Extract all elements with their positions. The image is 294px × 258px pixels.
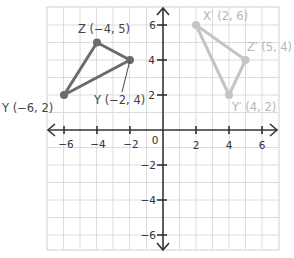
y-tick-label: 6: [149, 19, 156, 31]
label-y-prime: Y′ (4, 2): [231, 100, 276, 114]
y-tick-label: −4: [141, 194, 157, 206]
point-y: [60, 91, 68, 99]
point-z: [93, 39, 101, 47]
x-tick-label: −2: [123, 138, 138, 150]
label-z-prime: Z′ (5, 4): [247, 40, 292, 54]
point-z-prime: [242, 56, 250, 64]
y-tick-label: −2: [141, 159, 156, 171]
x-tick-label: 6: [259, 139, 266, 151]
x-tick-label: −6: [58, 138, 74, 150]
label-z: Z (−4, 5): [78, 22, 130, 36]
point-y-prime: [225, 91, 233, 99]
y-tick-label: −6: [141, 229, 157, 241]
coordinate-plane: −6 −4 −2 0 2 4 6 6 4 2 −2 −4 −6 Z (−4, 5…: [0, 0, 294, 258]
label-y-right: Y (−2, 4): [93, 93, 145, 107]
x-tick-label: 2: [193, 139, 200, 151]
y-tick-label: 2: [148, 89, 155, 101]
x-tick-label: 4: [226, 139, 233, 151]
x-tick-label: −4: [90, 138, 106, 150]
y-tick-label: 4: [148, 54, 155, 66]
point-x-prime: [192, 21, 200, 29]
label-x-prime: X′ (2, 6): [203, 9, 248, 23]
origin-label: 0: [152, 134, 159, 146]
label-y-left: Y (−6, 2): [1, 101, 53, 115]
